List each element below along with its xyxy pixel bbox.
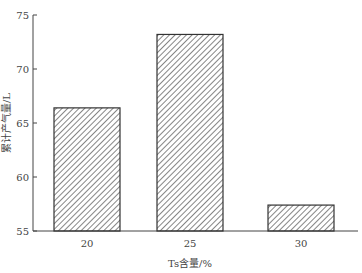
y-axis-label: 累计产气量/L [0, 93, 12, 153]
x-axis-label: Ts含量/% [168, 257, 212, 269]
bar-chart: 5560657075 202530 Ts含量/%累计产气量/L [0, 0, 362, 273]
x-tick-label: 30 [295, 238, 308, 249]
bars: 202530 [54, 34, 334, 249]
x-tick-label: 25 [184, 238, 197, 249]
bar-25 [157, 34, 223, 231]
x-tick-label: 20 [81, 238, 94, 249]
bar-30 [268, 205, 334, 231]
y-tick-label: 55 [16, 226, 29, 237]
y-tick-label: 60 [16, 172, 29, 183]
bar-20 [54, 108, 120, 231]
y-tick-label: 75 [16, 10, 29, 21]
y-tick-label: 65 [16, 118, 29, 129]
y-tick-label: 70 [16, 64, 29, 75]
